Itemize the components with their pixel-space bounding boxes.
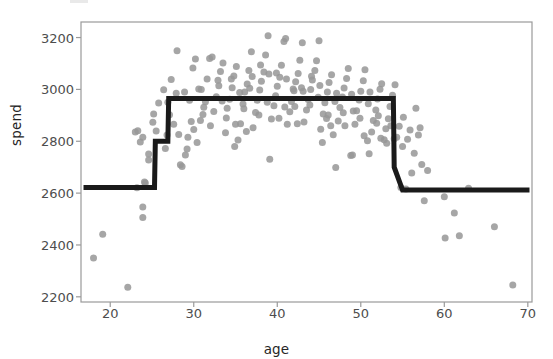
scatter-point (245, 67, 252, 74)
x-tick-label: 20 (102, 306, 119, 321)
scatter-point (229, 84, 236, 91)
scatter-point (372, 106, 379, 113)
y-tick-label: 2600 (41, 186, 74, 201)
scatter-point (330, 131, 337, 138)
scatter-point (343, 75, 350, 82)
scatter-point (255, 112, 262, 119)
scatter-point (300, 88, 307, 95)
scatter-point (198, 86, 205, 93)
scatter-point (424, 167, 431, 174)
scatter-point (270, 102, 277, 109)
scatter-point (341, 122, 348, 129)
scatter-point (235, 136, 242, 143)
scatter-point (295, 70, 302, 77)
scatter-point (378, 80, 385, 87)
scatter-point (207, 122, 214, 129)
scatter-point (396, 123, 403, 130)
scatter-point (262, 51, 269, 58)
scatter-point (294, 120, 301, 127)
scatter-point (408, 169, 415, 176)
scatter-point (139, 214, 146, 221)
scatter-point (194, 139, 201, 146)
scatter-point (282, 35, 289, 42)
scatter-point (326, 79, 333, 86)
scatter-point (308, 73, 315, 80)
scatter-point (240, 105, 247, 112)
scatter-point (366, 89, 373, 96)
scatter-point (278, 62, 285, 69)
scatter-point (256, 86, 263, 93)
scatter-point (385, 115, 392, 122)
scatter-point (170, 121, 177, 128)
scatter-point (184, 146, 191, 153)
scatter-point (356, 115, 363, 122)
y-tick-label: 2200 (41, 289, 74, 304)
scatter-point (283, 76, 290, 83)
scatter-point (281, 104, 288, 111)
scatter-point (327, 122, 334, 129)
scatter-point (404, 136, 411, 143)
scatter-point (197, 117, 204, 124)
scatter-point (243, 128, 250, 135)
scatter-point (265, 32, 272, 39)
scatter-point (188, 118, 195, 125)
scatter-point (265, 71, 272, 78)
scatter-point (383, 140, 390, 147)
scatter-point (451, 210, 458, 217)
scatter-point (168, 76, 175, 83)
scatter-point (204, 76, 211, 83)
scatter-point (273, 70, 280, 77)
scatter-point (415, 132, 422, 139)
scatter-point (442, 234, 449, 241)
scatter-point (361, 66, 368, 73)
x-tick-label: 30 (185, 306, 202, 321)
scatter-point (417, 124, 424, 131)
scatter-point (349, 152, 356, 159)
scatter-point (236, 89, 243, 96)
figure-canvas: spend age 203040506070220024002600280030… (0, 0, 553, 359)
scatter-point (357, 88, 364, 95)
scatter-point (307, 86, 314, 93)
scatter-point (421, 197, 428, 204)
scatter-point (145, 156, 152, 163)
scatter-point (250, 124, 257, 131)
scatter-point (219, 59, 226, 66)
scatter-point (319, 139, 326, 146)
x-tick-label: 70 (520, 306, 537, 321)
scatter-point (266, 156, 273, 163)
scatter-point (134, 127, 141, 134)
scatter-point (209, 54, 216, 61)
scatter-point (222, 129, 229, 136)
y-tick-label: 2400 (41, 237, 74, 252)
scatter-point (366, 150, 373, 157)
scatter-point (248, 48, 255, 55)
scatter-point (217, 68, 224, 75)
scatter-point (182, 152, 189, 159)
scatter-point (325, 112, 332, 119)
scatter-point (306, 101, 313, 108)
scatter-point (317, 126, 324, 133)
scatter-point (332, 164, 339, 171)
scatter-point (214, 77, 221, 84)
scatter-point (124, 284, 131, 291)
scatter-point (341, 85, 348, 92)
x-tick-label: 60 (436, 306, 453, 321)
scatter-point (351, 121, 358, 128)
scatter-point (284, 121, 291, 128)
scatter-point (184, 134, 191, 141)
scatter-point (313, 57, 320, 64)
scatter-point (192, 56, 199, 63)
scatter-point (189, 64, 196, 71)
scatter-point (228, 76, 235, 83)
scatter-point (368, 128, 375, 135)
scatter-point (200, 104, 207, 111)
scatter-point (199, 111, 206, 118)
scatter-point (350, 107, 357, 114)
x-tick-label: 50 (353, 306, 370, 321)
scatter-point (400, 114, 407, 121)
scatter-point (175, 131, 182, 138)
y-tick-label: 2800 (41, 134, 74, 149)
scatter-point (179, 163, 186, 170)
scatter-point (509, 281, 516, 288)
scatter-point (150, 111, 157, 118)
